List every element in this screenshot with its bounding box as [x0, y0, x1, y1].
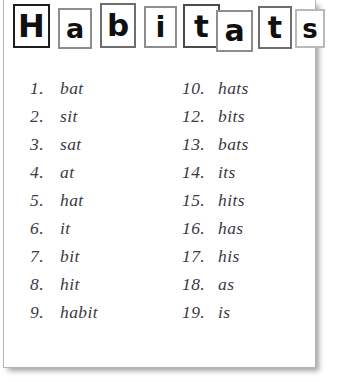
list-item-word: is	[218, 298, 230, 326]
list-item-number: 10.	[182, 74, 218, 102]
list-item-word: bits	[218, 102, 245, 130]
list-item-number: 19.	[182, 298, 218, 326]
list-item: 12. bits	[182, 102, 322, 130]
title-letter-box-8: s	[295, 9, 325, 48]
list-item: 3. sat	[30, 130, 180, 158]
list-item-number: 14.	[182, 158, 218, 186]
worksheet-page: H a b i t a t s	[0, 0, 337, 382]
list-item-number: 9.	[30, 298, 60, 326]
list-item-word: its	[218, 158, 236, 186]
list-item: 9. habit	[30, 298, 180, 326]
list-item-word: hit	[60, 270, 80, 298]
list-item-word: bit	[60, 242, 80, 270]
list-item-word: his	[218, 242, 240, 270]
paper-sheet: H a b i t a t s	[3, 0, 316, 368]
title-letter-box-2: a	[58, 8, 92, 49]
title-letter-box-1: H	[13, 4, 50, 48]
title-letter-box-6: a	[216, 10, 253, 52]
title-letter-box-3: b	[100, 3, 136, 48]
list-item: 5. hat	[30, 186, 180, 214]
list-item: 10. hats	[182, 74, 322, 102]
list-item: 8. hit	[30, 270, 180, 298]
title-letter-glyph: a	[224, 16, 244, 46]
list-item-number: 5.	[30, 186, 60, 214]
list-item-number: 6.	[30, 214, 60, 242]
title-letter-glyph: H	[18, 10, 45, 42]
list-item-number: 17.	[182, 242, 218, 270]
list-item-number: 16.	[182, 214, 218, 242]
title-letter-box-4: i	[144, 6, 177, 48]
list-item-word: has	[218, 214, 244, 242]
list-item-number: 18.	[182, 270, 218, 298]
list-item-word: hits	[218, 186, 245, 214]
list-item-number: 2.	[30, 102, 60, 130]
title-letter-glyph: i	[156, 13, 166, 42]
word-list-left-column: 1. bat 2. sit 3. sat 4. at 5. hat 6. it	[30, 74, 180, 326]
list-item-number: 13.	[182, 130, 218, 158]
list-item: 14. its	[182, 158, 322, 186]
list-item-number: 1.	[30, 74, 60, 102]
list-item-word: habit	[60, 298, 98, 326]
list-item: 19. is	[182, 298, 322, 326]
list-item: 1. bat	[30, 74, 180, 102]
list-item-number: 3.	[30, 130, 60, 158]
list-item: 7. bit	[30, 242, 180, 270]
title-letter-box-5: t	[183, 4, 220, 48]
list-item-word: hats	[218, 74, 249, 102]
word-list-right-column: 10. hats 12. bits 13. bats 14. its 15. h…	[182, 74, 322, 326]
list-item: 13. bats	[182, 130, 322, 158]
list-item-number: 12.	[182, 102, 218, 130]
list-item: 16. has	[182, 214, 322, 242]
list-item-number: 8.	[30, 270, 60, 298]
title-letter-glyph: t	[194, 11, 209, 42]
list-item-word: hat	[60, 186, 84, 214]
title-letter-glyph: t	[268, 13, 282, 43]
list-item: 6. it	[30, 214, 180, 242]
title-letter-glyph: a	[66, 15, 84, 42]
list-item-word: bats	[218, 130, 249, 158]
list-item-number: 4.	[30, 158, 60, 186]
list-item: 15. hits	[182, 186, 322, 214]
list-item-word: it	[60, 214, 71, 242]
list-item-word: sit	[60, 102, 78, 130]
list-item-word: as	[218, 270, 234, 298]
list-item-word: at	[60, 158, 74, 186]
title-letter-glyph: b	[107, 10, 129, 41]
list-item-number: 15.	[182, 186, 218, 214]
list-item: 4. at	[30, 158, 180, 186]
list-item: 18. as	[182, 270, 322, 298]
list-item-word: sat	[60, 130, 82, 158]
title-letter-box-7: t	[258, 6, 292, 49]
list-item-word: bat	[60, 74, 84, 102]
list-item: 2. sit	[30, 102, 180, 130]
title-letter-glyph: s	[302, 16, 317, 42]
title-letter-boxes: H a b i t a t s	[4, 0, 317, 58]
list-item: 17. his	[182, 242, 322, 270]
list-item-number: 7.	[30, 242, 60, 270]
